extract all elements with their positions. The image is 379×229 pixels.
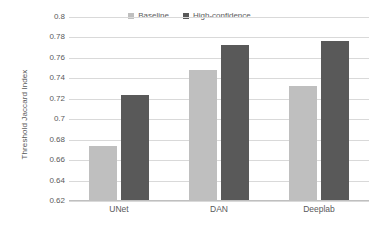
bar-high-confidence-unet xyxy=(121,95,149,201)
y-axis-tick-label: 0.8 xyxy=(31,13,65,21)
y-axis-tick-label: 0.64 xyxy=(31,177,65,185)
bar-high-confidence-dan xyxy=(221,45,249,201)
plot-area xyxy=(69,17,369,201)
bar-high-confidence-deeplab xyxy=(321,41,349,201)
gridline xyxy=(69,201,369,202)
y-axis-tick-label: 0.7 xyxy=(31,115,65,123)
y-axis-tick-label: 0.62 xyxy=(31,197,65,205)
bar-group xyxy=(69,17,169,201)
y-axis-tick-label: 0.76 xyxy=(31,54,65,62)
y-axis-tick-label: 0.74 xyxy=(31,74,65,82)
y-axis-tick-label: 0.78 xyxy=(31,33,65,41)
bar-baseline-deeplab xyxy=(289,86,317,202)
y-axis-tick-label: 0.66 xyxy=(31,156,65,164)
x-axis-tick-label: DAN xyxy=(169,205,269,214)
x-axis-tick-label: Deeplab xyxy=(269,205,369,214)
y-axis-tick-label: 0.68 xyxy=(31,136,65,144)
bar-baseline-unet xyxy=(89,146,117,201)
x-axis-tick-label: UNet xyxy=(69,205,169,214)
y-axis-tick-label: 0.72 xyxy=(31,95,65,103)
bar-groups xyxy=(69,17,369,201)
bar-group xyxy=(269,17,369,201)
y-axis-tick-labels: 0.80.780.760.740.720.70.680.660.640.62 xyxy=(28,17,65,201)
bar-chart: Baseline High-confidence Threshold Jacca… xyxy=(0,0,379,229)
x-axis-line xyxy=(69,200,369,201)
bar-baseline-dan xyxy=(189,70,217,201)
bar-group xyxy=(169,17,269,201)
x-axis-tick-labels: UNetDANDeeplab xyxy=(69,205,369,214)
